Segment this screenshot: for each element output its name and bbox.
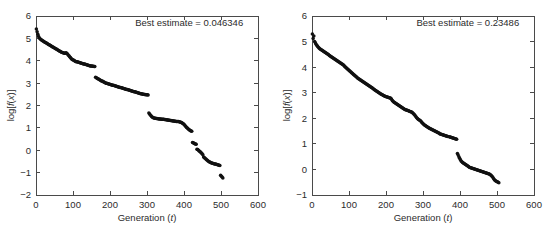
- x-tick-label: 300: [139, 199, 155, 210]
- best-estimate-annotation: Best estimate = 0.23486: [416, 17, 519, 28]
- y-tick-label: 4: [26, 55, 31, 66]
- y-tick-label: 4: [302, 62, 307, 73]
- data-point: [312, 34, 316, 38]
- data-point: [221, 176, 225, 180]
- chart-panel-left: 0100200300400500600−2−10123456Generation…: [0, 0, 276, 235]
- x-tick-label: 500: [213, 199, 229, 210]
- best-estimate-annotation: Best estimate = 0.046346: [135, 17, 243, 28]
- y-tick-label: 6: [26, 10, 31, 21]
- y-tick-label: 2: [302, 113, 307, 124]
- data-point: [455, 138, 459, 142]
- y-axis: −2−10123456: [20, 10, 258, 200]
- x-tick-label: 600: [526, 199, 542, 210]
- y-tick-label: −2: [20, 189, 31, 200]
- y-tick-label: 5: [302, 36, 307, 47]
- data-point: [146, 93, 150, 97]
- x-tick-label: 400: [176, 199, 192, 210]
- figure-container: 0100200300400500600−2−10123456Generation…: [0, 0, 552, 235]
- plot-frame: [36, 16, 258, 195]
- y-tick-label: 1: [302, 138, 307, 149]
- data-point: [218, 164, 222, 168]
- y-tick-label: 3: [26, 78, 31, 89]
- y-tick-label: 5: [26, 33, 31, 44]
- plot-frame: [312, 16, 534, 195]
- y-axis-title: log[f(x)]: [5, 90, 16, 122]
- y-tick-label: 0: [302, 164, 307, 175]
- data-series-group: [311, 32, 501, 184]
- chart-svg-left: 0100200300400500600−2−10123456Generation…: [0, 0, 276, 235]
- x-axis-title: Generation (t): [394, 212, 453, 223]
- y-tick-label: −1: [20, 167, 31, 178]
- y-axis: −10123456: [296, 10, 534, 200]
- x-tick-label: 600: [250, 199, 266, 210]
- y-tick-label: 2: [26, 100, 31, 111]
- x-tick-label: 200: [102, 199, 118, 210]
- y-axis-title: log[f(x)]: [281, 90, 292, 122]
- data-point: [194, 142, 198, 146]
- chart-svg-right: 0100200300400500600−10123456Generation (…: [276, 0, 552, 235]
- x-tick-label: 100: [341, 199, 357, 210]
- x-axis: 0100200300400500600: [309, 16, 542, 210]
- x-tick-label: 0: [33, 199, 38, 210]
- y-tick-label: 6: [302, 10, 307, 21]
- y-tick-label: 0: [26, 145, 31, 156]
- data-point: [190, 129, 194, 133]
- chart-panel-right: 0100200300400500600−10123456Generation (…: [276, 0, 552, 235]
- y-tick-label: −1: [296, 189, 307, 200]
- x-tick-label: 400: [452, 199, 468, 210]
- y-tick-label: 1: [26, 122, 31, 133]
- data-point: [93, 65, 97, 69]
- y-tick-label: 3: [302, 87, 307, 98]
- x-tick-label: 0: [309, 199, 314, 210]
- x-tick-label: 300: [415, 199, 431, 210]
- data-point: [497, 181, 501, 185]
- x-tick-label: 500: [489, 199, 505, 210]
- x-axis-title: Generation (t): [118, 212, 177, 223]
- x-tick-label: 200: [378, 199, 394, 210]
- data-series-group: [35, 27, 225, 180]
- x-tick-label: 100: [65, 199, 81, 210]
